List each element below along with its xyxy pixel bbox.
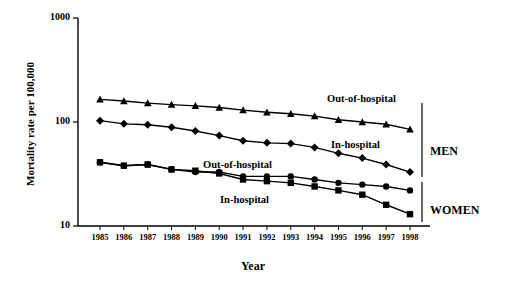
data-point-diamond xyxy=(239,137,247,145)
data-point-square xyxy=(288,180,294,186)
data-point-diamond xyxy=(263,139,271,147)
data-point-diamond xyxy=(144,121,152,129)
chart-figure: Mortality rate per 100,000 Year 10001001… xyxy=(0,0,506,283)
data-point-diamond xyxy=(120,120,128,128)
series-label-men-in-hospital: In-hospital xyxy=(331,139,380,150)
data-point-square xyxy=(240,176,246,182)
y-tick-label-10: 10 xyxy=(16,219,70,230)
data-point-square xyxy=(97,159,103,165)
data-point-square xyxy=(121,163,127,169)
data-point-square xyxy=(383,202,389,208)
data-point-square xyxy=(216,170,222,176)
data-point-diamond xyxy=(311,143,319,151)
data-point-diamond xyxy=(191,127,199,135)
x-axis-title: Year xyxy=(0,259,506,274)
series-label-men-out-of-hospital: Out-of-hospital xyxy=(327,93,396,104)
data-point-circle xyxy=(383,183,389,189)
data-point-diamond xyxy=(168,123,176,131)
series-label-women-out-of-hospital: Out-of-hospital xyxy=(203,159,272,170)
y-axis-ticks xyxy=(73,18,78,226)
data-point-square xyxy=(359,191,365,197)
data-point-circle xyxy=(311,176,317,182)
data-point-circle xyxy=(335,180,341,186)
data-point-square xyxy=(335,187,341,193)
series-line xyxy=(100,162,410,214)
data-point-square xyxy=(311,183,317,189)
data-point-diamond xyxy=(334,149,342,157)
group-label-women: WOMEN xyxy=(430,203,479,218)
y-tick-label-100: 100 xyxy=(16,115,70,126)
data-point-square xyxy=(168,166,174,172)
data-point-square xyxy=(144,161,150,167)
data-point-circle xyxy=(288,173,294,179)
data-point-circle xyxy=(407,187,413,193)
data-point-square xyxy=(264,178,270,184)
group-label-men: MEN xyxy=(430,144,458,159)
data-point-diamond xyxy=(382,161,390,169)
data-point-diamond xyxy=(215,132,223,140)
x-tick-label-1998: 1998 xyxy=(395,232,425,242)
data-point-diamond xyxy=(406,168,414,176)
data-point-diamond xyxy=(287,140,295,148)
data-point-diamond xyxy=(358,154,366,162)
series-label-women-in-hospital: In-hospital xyxy=(220,194,269,205)
y-tick-label-1000: 1000 xyxy=(16,11,70,22)
data-point-square xyxy=(192,168,198,174)
data-point-circle xyxy=(359,181,365,187)
data-point-square xyxy=(407,211,413,217)
data-point-diamond xyxy=(96,117,104,125)
